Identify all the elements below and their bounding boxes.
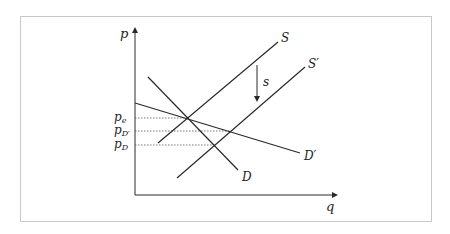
- curve-label-D: D: [241, 170, 252, 184]
- demand-curve-D: [148, 77, 238, 170]
- y-axis-label: p: [120, 26, 129, 41]
- shift-label: s: [263, 75, 269, 89]
- curve-label-S-prime: S′: [308, 57, 319, 71]
- supply-demand-diagram: p q S S′ D D′ s pe pD′ pD: [0, 0, 450, 234]
- price-label-pD: pD: [114, 137, 129, 152]
- x-axis-label: q: [326, 199, 334, 214]
- price-label-pD-prime: pD′: [114, 123, 130, 138]
- curve-label-D-prime: D′: [303, 149, 317, 163]
- curve-label-S: S: [281, 31, 289, 45]
- supply-curve-S-prime: [177, 67, 305, 178]
- demand-curve-D-prime: [135, 103, 300, 153]
